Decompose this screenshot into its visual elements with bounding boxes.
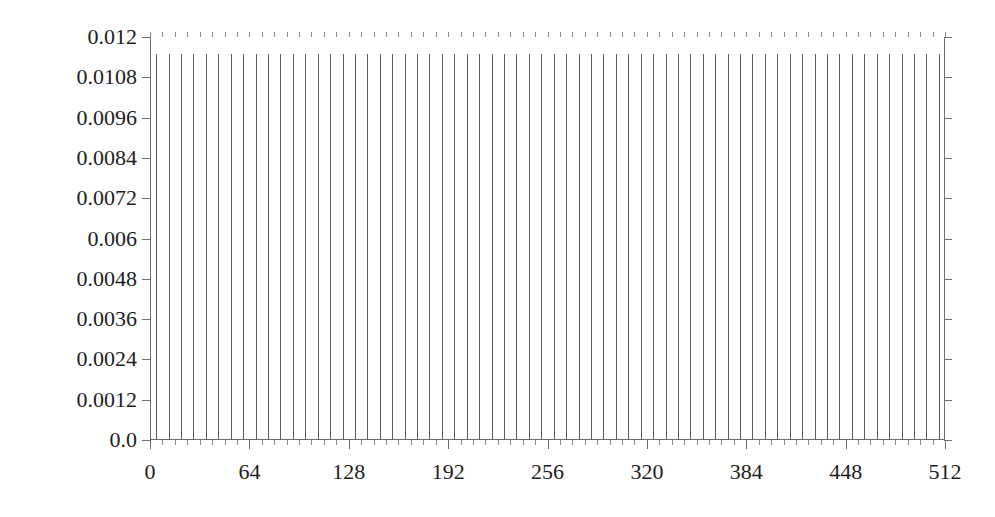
x-axis-tick-minor (659, 440, 660, 445)
y-axis-tick (142, 359, 150, 360)
x-axis-tick-minor (895, 440, 896, 445)
x-axis-tick-minor (386, 440, 387, 445)
histogram-bar (815, 54, 816, 440)
histogram-bar (877, 54, 878, 440)
histogram-bar (603, 54, 604, 440)
x-axis-tick-minor (808, 440, 809, 445)
histogram-bar (492, 54, 493, 440)
y-axis-tick-right (944, 198, 952, 199)
histogram-bar (231, 54, 232, 440)
x-axis-tick-minor (311, 440, 312, 445)
x-axis-tick-minor (610, 440, 611, 445)
histogram-bar (902, 54, 903, 440)
histogram-bar (193, 54, 194, 440)
x-axis-tick-minor (411, 440, 412, 445)
x-axis-tick-minor (933, 440, 934, 445)
x-axis-tick-minor (473, 440, 474, 445)
histogram-bar (728, 54, 729, 440)
histogram-bar (405, 54, 406, 440)
histogram-bar (355, 54, 356, 440)
x-axis-tick-label: 384 (730, 461, 763, 483)
plot-area: 0.0120.01080.00960.00840.00720.0060.0048… (150, 37, 945, 440)
x-axis-tick-minor (162, 440, 163, 445)
x-axis-tick-minor (721, 440, 722, 445)
x-axis-tick-minor (398, 440, 399, 445)
histogram-bar (516, 54, 517, 440)
y-axis-tick-label: 0.0012 (77, 389, 138, 411)
x-axis-tick-label: 256 (531, 461, 564, 483)
y-axis-tick (142, 118, 150, 119)
histogram-bar (889, 54, 890, 440)
chart-root: 0.0120.01080.00960.00840.00720.0060.0048… (0, 0, 995, 517)
y-axis-tick-label: 0.012 (88, 26, 138, 48)
x-axis-tick-major (945, 440, 946, 449)
y-axis-tick-right (944, 319, 952, 320)
histogram-bar (268, 54, 269, 440)
y-axis-tick-label: 0.0 (110, 429, 138, 451)
x-axis-tick-minor (771, 440, 772, 445)
histogram-bar (392, 54, 393, 440)
histogram-bar (467, 54, 468, 440)
x-axis-tick-label: 0 (145, 461, 156, 483)
y-axis-tick-right (944, 77, 952, 78)
x-axis-tick-minor (523, 440, 524, 445)
histogram-bar (280, 54, 281, 440)
x-axis-tick-minor (709, 440, 710, 445)
x-axis-tick-minor (560, 440, 561, 445)
x-axis-tick-minor (200, 440, 201, 445)
histogram-bar (380, 54, 381, 440)
y-axis-tick-right (944, 118, 952, 119)
histogram-bar (591, 54, 592, 440)
x-axis-tick-minor (287, 440, 288, 445)
y-axis-tick (142, 279, 150, 280)
x-axis-tick-minor (870, 440, 871, 445)
y-axis-tick (142, 77, 150, 78)
x-axis-tick-minor (324, 440, 325, 445)
x-axis-tick-major (150, 440, 151, 449)
x-axis-tick-minor (833, 440, 834, 445)
x-axis-tick-minor (920, 440, 921, 445)
x-axis-tick-label: 192 (432, 461, 465, 483)
histogram-bar (666, 54, 667, 440)
x-axis-tick-label: 512 (929, 461, 962, 483)
x-axis-tick-minor (187, 440, 188, 445)
histogram-bar (318, 54, 319, 440)
x-axis-tick-minor (498, 440, 499, 445)
histogram-bar (752, 54, 753, 440)
x-axis-tick-major (746, 440, 747, 449)
x-axis-tick-label: 64 (238, 461, 260, 483)
histogram-bar (330, 54, 331, 440)
histogram-bar (305, 54, 306, 440)
histogram-bar (504, 54, 505, 440)
histogram-bar (529, 54, 530, 440)
x-axis-tick-label: 448 (829, 461, 862, 483)
x-axis-tick-minor (225, 440, 226, 445)
y-axis-tick-label: 0.0036 (77, 308, 138, 330)
histogram-bar (852, 54, 853, 440)
x-axis-tick-minor (585, 440, 586, 445)
histogram-bar (678, 54, 679, 440)
x-axis-tick-minor (697, 440, 698, 445)
histogram-bar (914, 54, 915, 440)
x-axis-tick-minor (535, 440, 536, 445)
y-axis-tick (142, 158, 150, 159)
histogram-bar (641, 54, 642, 440)
x-axis-tick-minor (510, 440, 511, 445)
y-axis-tick-label: 0.0108 (77, 66, 138, 88)
x-axis-tick-minor (212, 440, 213, 445)
x-axis-tick-minor (299, 440, 300, 445)
x-axis-tick-minor (858, 440, 859, 445)
histogram-bar (169, 54, 170, 440)
histogram-bar (864, 54, 865, 440)
y-axis-tick-label: 0.0048 (77, 268, 138, 290)
x-axis-tick-minor (485, 440, 486, 445)
histogram-bar (827, 54, 828, 440)
y-axis-tick (142, 440, 150, 441)
x-axis-tick-minor (684, 440, 685, 445)
x-axis-tick-minor (175, 440, 176, 445)
histogram-bar (690, 54, 691, 440)
x-axis-tick-minor (374, 440, 375, 445)
x-axis-tick-minor (734, 440, 735, 445)
x-axis-tick-label: 320 (630, 461, 663, 483)
x-axis-tick-minor (622, 440, 623, 445)
